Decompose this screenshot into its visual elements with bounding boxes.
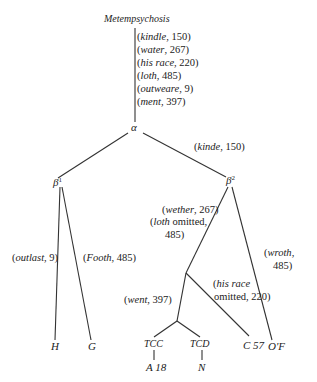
edge-label-his-race: (his race [213,277,250,290]
edge-TCC [154,321,177,337]
node-OF: O'F [268,340,285,352]
node-N: N [198,361,205,373]
edge-label-went: (went, 397) [124,293,172,306]
node-H: H [51,340,59,352]
reading-water: (water, 267) [137,43,199,56]
title-metempsychosis: Metempsychosis [104,12,170,25]
edge-label-outlast: (outlast, 9) [12,251,58,264]
reading-kindle: (kindle, 150) [137,30,199,43]
edge-TCD [177,321,200,337]
reading-his-race: (his race, 220) [137,56,199,69]
edge-beta2-lower [186,187,228,273]
edge-label-485-b: 485) [273,259,292,272]
node-G: G [88,340,96,352]
reading-ment: (ment, 397) [137,95,199,108]
edge-label-kinde: (kinde, 150) [194,140,245,153]
edge-label-footh: (Footh, 485) [83,251,136,264]
edge-alpha-beta1 [58,133,128,178]
node-TCD: TCD [190,338,209,349]
reading-outweare: (outweare, 9) [137,82,199,95]
edge-went [177,273,186,321]
edge-label-loth-omitted: (loth omitted, [150,215,207,228]
node-beta1: β1 [53,176,62,188]
node-beta2: β2 [226,174,235,186]
node-TCC: TCC [144,338,163,349]
edge-beta2-OF [232,187,272,340]
edge-label-485-a: 485) [165,228,184,241]
node-A18: A 18 [146,361,166,373]
reading-loth: (loth, 485) [137,69,199,82]
root-readings: (kindle, 150) (water, 267) (his race, 22… [137,30,199,108]
edge-label-omitted-220: omitted, 220) [214,290,271,303]
node-alpha: α [131,121,137,133]
edge-label-wroth: (wroth, [264,246,294,259]
node-C57: C 57 [243,339,264,351]
